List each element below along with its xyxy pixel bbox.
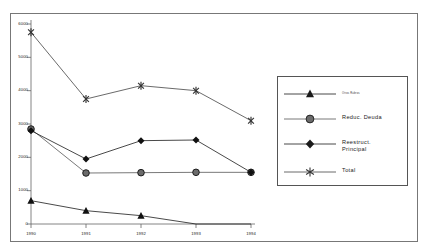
y-tick-label: 0	[12, 222, 28, 226]
legend-item-reduc-deuda: Reduc. Deuda	[278, 112, 409, 134]
data-point-triangle	[27, 197, 34, 204]
legend-label: Total	[342, 167, 356, 174]
data-point-asterisk	[83, 95, 89, 103]
x-tick-label: 1992	[129, 232, 153, 236]
series-line	[31, 131, 251, 173]
legend-marker-triangle	[284, 87, 336, 101]
y-tick-label: 5000	[12, 55, 28, 59]
legend-marker-circle	[284, 112, 336, 126]
series-line	[31, 32, 251, 120]
legend-label: Reestruct. Principal	[342, 139, 371, 154]
data-point-circle	[193, 169, 200, 176]
series-line	[31, 129, 251, 173]
legend-marker-asterisk	[284, 165, 336, 179]
legend-marker-diamond	[284, 137, 336, 151]
x-tick-label: 1994	[239, 232, 263, 236]
y-tick-label: 1000	[12, 188, 28, 192]
chart-frame: 6000 5000 4000 3000 2000 1000 0 1990 199…	[10, 13, 418, 242]
y-tick-label: 6000	[12, 22, 28, 26]
legend-label: Otros Rubros	[342, 92, 360, 95]
legend-label: Reduc. Deuda	[342, 114, 382, 121]
x-tick-label: 1990	[19, 232, 43, 236]
legend-item-reestruct-principal: Reestruct. Principal	[278, 137, 409, 167]
data-point-diamond	[138, 137, 145, 144]
y-tick-label: 3000	[12, 122, 28, 126]
data-point-diamond	[83, 156, 90, 163]
x-tick-label: 1993	[184, 232, 208, 236]
legend-item-otros-rubros: Otros Rubros	[278, 87, 409, 109]
data-point-asterisk	[28, 28, 34, 36]
chart-legend: Otros Rubros Reduc. Deuda Reestruct. Pri…	[277, 76, 408, 186]
x-tick-label: 1991	[74, 232, 98, 236]
data-point-asterisk	[248, 117, 254, 125]
y-tick-label: 4000	[12, 88, 28, 92]
data-point-circle	[83, 170, 90, 177]
legend-item-total: Total	[278, 165, 409, 187]
data-point-circle	[138, 169, 145, 176]
data-point-diamond	[193, 137, 200, 144]
y-tick-label: 2000	[12, 155, 28, 159]
